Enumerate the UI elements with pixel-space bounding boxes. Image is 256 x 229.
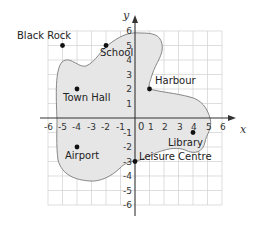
x-axis-arrow-icon (228, 115, 236, 121)
point-library (191, 130, 196, 135)
svg-text:6: 6 (126, 26, 132, 36)
svg-text:-1: -1 (123, 128, 132, 138)
svg-text:0: 0 (138, 121, 144, 132)
svg-text:-4: -4 (72, 122, 81, 132)
x-axis-label: x (240, 123, 247, 136)
svg-text:-2: -2 (123, 142, 132, 152)
coordinate-map: x y -6 -5 -4 -3 -2 -1 0 1 2 3 4 5 6 6 5 … (0, 0, 256, 229)
svg-text:-5: -5 (58, 122, 67, 132)
svg-text:1: 1 (126, 99, 132, 109)
svg-text:-6: -6 (44, 122, 53, 132)
svg-text:-6: -6 (123, 200, 132, 210)
label-town-hall: Town Hall (62, 92, 110, 103)
svg-text:2: 2 (162, 122, 168, 132)
label-school: School (100, 47, 133, 58)
label-airport: Airport (65, 150, 99, 161)
label-black-rock: Black Rock (17, 30, 71, 41)
point-leisure-centre (133, 159, 138, 164)
point-town-hall (75, 87, 80, 92)
svg-text:3: 3 (177, 122, 183, 132)
label-leisure-centre: Leisure Centre (139, 151, 212, 162)
y-axis-arrow-icon (132, 15, 138, 23)
point-airport (75, 145, 80, 150)
svg-text:-3: -3 (87, 122, 96, 132)
svg-text:-2: -2 (101, 122, 110, 132)
svg-text:-3: -3 (123, 157, 132, 167)
svg-text:2: 2 (126, 84, 132, 94)
svg-text:-4: -4 (123, 171, 132, 181)
svg-text:-5: -5 (123, 186, 132, 196)
point-harbour (147, 87, 152, 92)
svg-text:6: 6 (220, 122, 226, 132)
svg-text:3: 3 (126, 70, 132, 80)
svg-text:1: 1 (148, 122, 154, 132)
svg-text:5: 5 (206, 122, 212, 132)
label-harbour: Harbour (155, 75, 197, 86)
y-axis-label: y (122, 9, 130, 22)
point-black-rock (60, 43, 65, 48)
label-library: Library (168, 137, 203, 148)
